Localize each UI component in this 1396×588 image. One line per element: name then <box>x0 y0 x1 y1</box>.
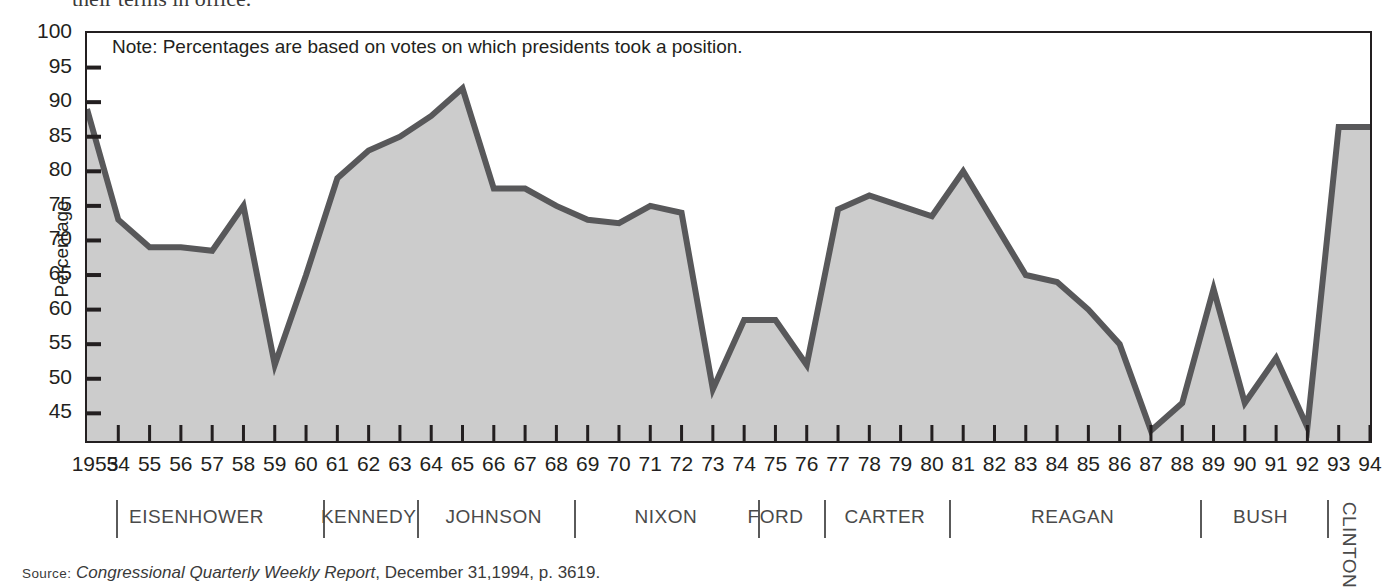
president-divider <box>824 500 826 538</box>
x-tick-label: 61 <box>326 452 349 476</box>
x-tick-label: 62 <box>357 452 380 476</box>
x-tick-label: 91 <box>1264 452 1287 476</box>
x-tick-label: 59 <box>263 452 286 476</box>
y-tick-label: 85 <box>20 124 72 145</box>
x-tick-label: 85 <box>1077 452 1100 476</box>
x-tick-label: 72 <box>670 452 693 476</box>
x-tick-label: 55 <box>138 452 161 476</box>
y-tick-label: 95 <box>20 55 72 76</box>
x-tick-label: 58 <box>232 452 255 476</box>
president-label-johnson: JOHNSON <box>446 506 542 528</box>
president-label-bush: BUSH <box>1233 506 1288 528</box>
x-tick-label: 86 <box>1108 452 1131 476</box>
x-tick-label: 68 <box>545 452 568 476</box>
x-tick-label: 92 <box>1296 452 1319 476</box>
x-tick-label: 77 <box>826 452 849 476</box>
area-fill <box>87 88 1370 441</box>
y-tick-label: 100 <box>20 20 72 41</box>
x-tick-label: 56 <box>169 452 192 476</box>
x-tick-label: 83 <box>1014 452 1037 476</box>
x-tick-label: 94 <box>1358 452 1381 476</box>
president-label-carter: CARTER <box>845 506 926 528</box>
president-label-clinton: CLINTON <box>1338 502 1360 588</box>
x-tick-label: 78 <box>858 452 881 476</box>
x-tick-label: 74 <box>732 452 755 476</box>
x-tick-label: 71 <box>639 452 662 476</box>
x-tick-label: 73 <box>701 452 724 476</box>
plot-area <box>85 31 1372 443</box>
president-term-band: EISENHOWERKENNEDYJOHNSONNIXONFORDCARTERR… <box>0 500 1396 560</box>
y-tick-label: 65 <box>20 262 72 283</box>
x-tick-label: 65 <box>451 452 474 476</box>
president-divider <box>949 500 951 538</box>
area-chart-svg <box>87 33 1370 441</box>
president-label-kennedy: KENNEDY <box>321 506 416 528</box>
president-divider <box>1327 500 1329 538</box>
x-tick-label: 93 <box>1327 452 1350 476</box>
president-divider <box>574 500 576 538</box>
source-citation: Source: Congressional Quarterly Weekly R… <box>22 563 600 583</box>
x-tick-label: 60 <box>294 452 317 476</box>
president-label-eisenhower: EISENHOWER <box>129 506 264 528</box>
y-tick-label: 90 <box>20 89 72 110</box>
y-tick-label: 70 <box>20 227 72 248</box>
source-details: , December 31,1994, p. 3619. <box>375 563 600 582</box>
x-tick-label: 76 <box>795 452 818 476</box>
x-tick-label: 54 <box>107 452 130 476</box>
president-divider <box>116 500 118 538</box>
x-tick-label: 80 <box>920 452 943 476</box>
y-tick-label: 45 <box>20 400 72 421</box>
x-tick-label: 88 <box>1171 452 1194 476</box>
x-tick-label: 57 <box>200 452 223 476</box>
chart-note: Note: Percentages are based on votes on … <box>112 36 743 58</box>
x-tick-label: 79 <box>889 452 912 476</box>
y-tick-label: 75 <box>20 193 72 214</box>
president-divider <box>1200 500 1202 538</box>
x-tick-label: 87 <box>1139 452 1162 476</box>
x-tick-label: 66 <box>482 452 505 476</box>
x-tick-label: 82 <box>983 452 1006 476</box>
x-tick-label: 90 <box>1233 452 1256 476</box>
x-tick-label: 64 <box>420 452 443 476</box>
president-label-ford: FORD <box>748 506 804 528</box>
x-tick-label: 70 <box>607 452 630 476</box>
source-publication: Congressional Quarterly Weekly Report <box>76 563 375 582</box>
x-tick-label: 84 <box>1045 452 1068 476</box>
president-divider <box>417 500 419 538</box>
chart-figure: Percentage 4550556065707580859095100 Not… <box>0 0 1396 588</box>
x-tick-marks <box>118 425 1370 441</box>
source-prefix: Source: <box>22 566 71 581</box>
president-label-nixon: NIXON <box>635 506 698 528</box>
y-tick-label: 60 <box>20 297 72 318</box>
x-tick-label: 81 <box>952 452 975 476</box>
x-tick-label: 63 <box>388 452 411 476</box>
x-tick-label: 69 <box>576 452 599 476</box>
x-axis-tick-labels: 1953545556575859606162636465666768697071… <box>0 452 1396 482</box>
y-tick-label: 50 <box>20 366 72 387</box>
x-tick-label: 75 <box>764 452 787 476</box>
y-tick-label: 55 <box>20 331 72 352</box>
x-tick-label: 89 <box>1202 452 1225 476</box>
president-label-reagan: REAGAN <box>1031 506 1114 528</box>
y-tick-label: 80 <box>20 158 72 179</box>
x-tick-label: 67 <box>513 452 536 476</box>
